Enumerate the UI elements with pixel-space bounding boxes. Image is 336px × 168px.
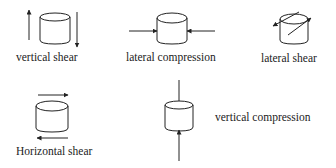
cylinder-icon bbox=[280, 14, 308, 44]
cylinder-icon bbox=[36, 101, 68, 132]
lateral-compression-figure bbox=[129, 13, 215, 44]
label-vertical-compression: vertical compression bbox=[215, 112, 310, 124]
lateral-shear-figure bbox=[273, 12, 311, 44]
label-lateral-compression: lateral compression bbox=[126, 52, 216, 64]
diagram-canvas bbox=[0, 0, 336, 168]
horizontal-shear-figure bbox=[36, 95, 68, 138]
label-lateral-shear: lateral shear bbox=[261, 53, 317, 65]
label-vertical-shear: vertical shear bbox=[16, 52, 78, 64]
label-horizontal-shear: Horizontal shear bbox=[16, 146, 92, 158]
cylinder-icon bbox=[165, 101, 193, 131]
cylinder-icon bbox=[40, 13, 70, 44]
cylinder-icon bbox=[157, 13, 187, 44]
vertical-compression-figure bbox=[165, 80, 193, 161]
vertical-shear-figure bbox=[29, 10, 77, 47]
